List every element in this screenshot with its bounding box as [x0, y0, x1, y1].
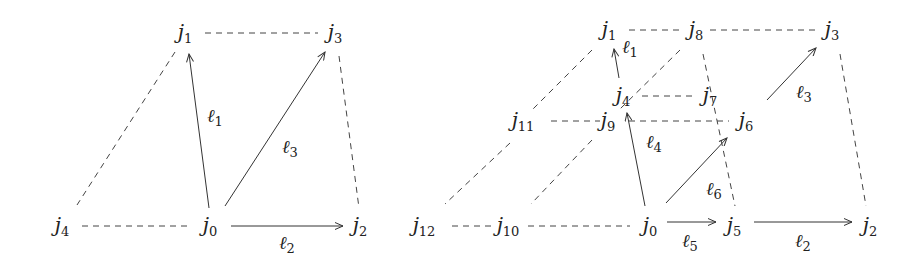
edge-label-l2: ℓ2: [795, 232, 811, 253]
edge-label-l1: ℓ1: [622, 38, 638, 59]
node-j4: j4: [616, 85, 630, 108]
node-j2: j2: [353, 215, 367, 238]
figure-canvas: ℓ1ℓ3ℓ2j0j1j2j3j4ℓ1ℓ4ℓ6ℓ3ℓ5ℓ2j0j1j2j3j4j5…: [0, 0, 924, 261]
node-j3: j3: [328, 22, 342, 45]
node-j8: j8: [689, 19, 703, 42]
arrow-edge-l1: [614, 49, 619, 78]
dashed-edge: [531, 50, 592, 111]
node-j2: j2: [863, 215, 877, 238]
edge-label-l2: ℓ2: [279, 234, 295, 255]
arrow-edge-l1: [189, 54, 209, 208]
node-j12: j12: [413, 215, 436, 238]
node-j4: j4: [55, 215, 69, 238]
node-j9: j9: [601, 110, 615, 133]
node-j7: j7: [703, 85, 717, 108]
edge-label-l3: ℓ3: [282, 138, 298, 159]
edge-label-l1: ℓ1: [207, 107, 223, 128]
edge-label-l4: ℓ4: [646, 133, 662, 154]
dashed-edge: [445, 143, 510, 204]
arrow-edge-l3: [225, 52, 325, 206]
node-j10: j10: [497, 215, 520, 238]
dashed-edge: [77, 52, 175, 205]
node-j3: j3: [825, 19, 839, 42]
edge-label-l3: ℓ3: [796, 83, 812, 104]
edge-label-l5: ℓ5: [682, 232, 698, 253]
node-j0: j0: [643, 215, 657, 238]
dashed-edge: [339, 56, 359, 208]
node-j6: j6: [739, 110, 753, 133]
dashed-edge: [840, 54, 866, 206]
right-diagram: [445, 30, 866, 226]
edge-label-l6: ℓ6: [706, 180, 722, 201]
node-j1: j1: [602, 19, 616, 42]
node-j11: j11: [512, 110, 535, 133]
left-diagram: [77, 33, 359, 226]
node-j0: j0: [203, 215, 217, 238]
node-j5: j5: [727, 215, 741, 238]
arrow-edge-l4: [627, 113, 645, 206]
node-j1: j1: [178, 22, 192, 45]
edges-layer: [0, 0, 924, 261]
dashed-edge: [531, 140, 592, 204]
